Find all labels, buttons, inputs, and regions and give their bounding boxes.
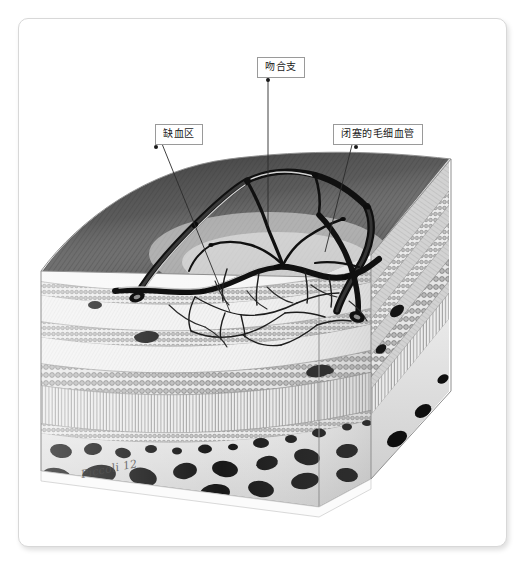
- label-ischemic-zone[interactable]: 缺血区: [155, 124, 203, 145]
- label-anchor-dot-ischemic: [154, 145, 158, 149]
- label-anchor-dot-anastomotic: [266, 78, 270, 82]
- label-occluded-capillary[interactable]: 闭塞的毛细血管: [333, 124, 423, 145]
- label-anchor-dot-occluded: [354, 145, 358, 149]
- label-anastomotic-branch[interactable]: 吻合支: [257, 57, 305, 78]
- illustration-card: 吻合支 缺血区 闭塞的毛细血管 Piccoli 12: [18, 18, 507, 547]
- screenshot-viewport: 吻合支 缺血区 闭塞的毛细血管 Piccoli 12: [0, 0, 530, 572]
